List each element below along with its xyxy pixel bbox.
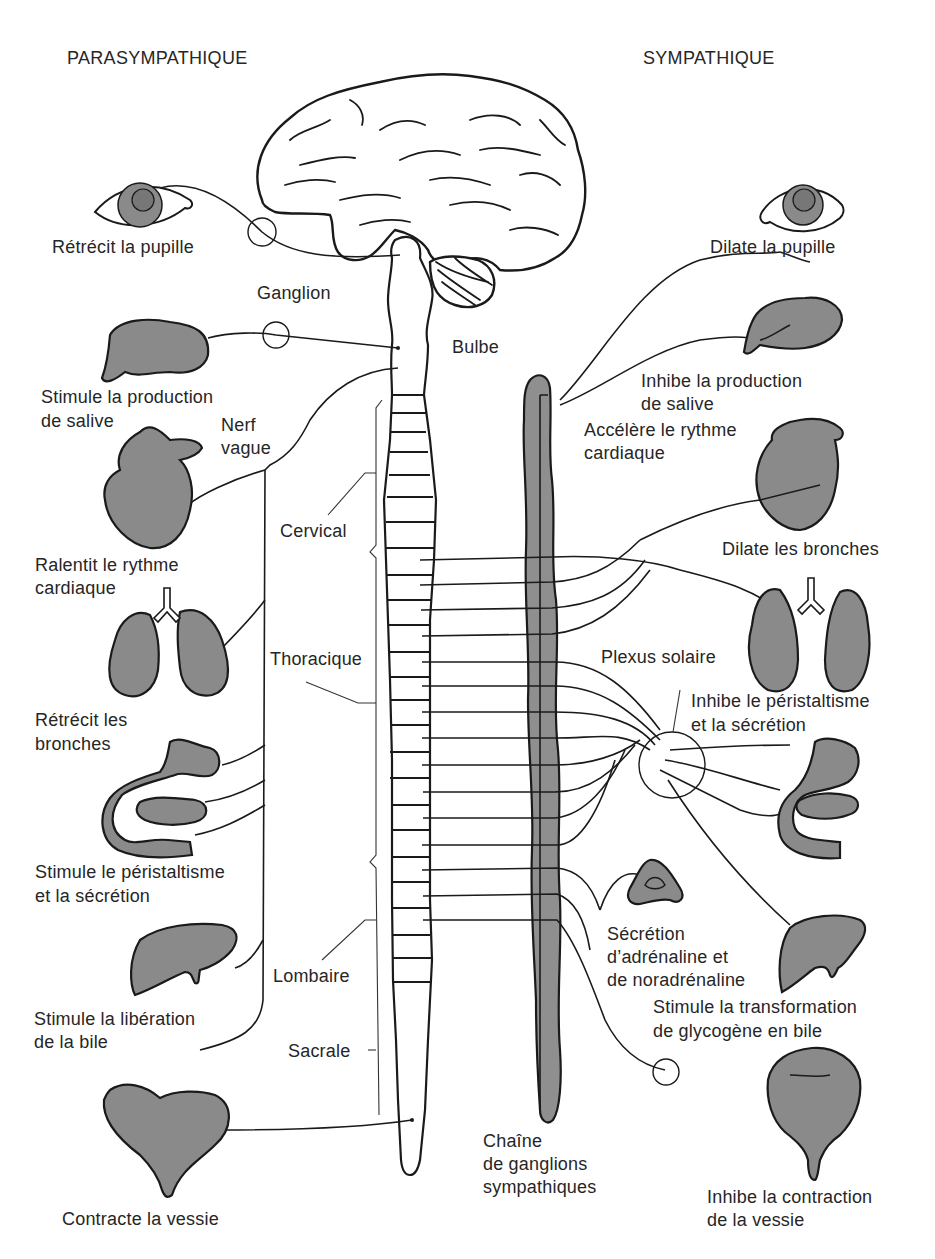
para-label-digestive-1: Stimule le péristaltisme <box>35 861 225 884</box>
para-label-digestive-2: et la sécrétion <box>35 885 150 908</box>
symp-label-bladder-2: de la vessie <box>707 1209 804 1232</box>
para-label-lungs-2: bronches <box>35 733 111 756</box>
label-chain-1: Chaîne <box>483 1130 542 1153</box>
symp-label-saliva-2: de salive <box>641 393 714 416</box>
adrenal-gland-icon <box>628 860 682 904</box>
liver-icon-left <box>131 924 236 995</box>
symp-label-adrenal-1: Sécrétion <box>607 923 685 946</box>
symp-label-liver-2: de glycogène en bile <box>653 1020 822 1043</box>
lungs-icon-right <box>749 578 869 691</box>
eye-icon-left <box>95 183 192 227</box>
para-label-heart-1: Ralentit le rythme <box>35 554 179 577</box>
stomach-intestine-icon-right <box>778 739 858 859</box>
bladder-icon-right <box>768 1048 861 1180</box>
region-brackets <box>306 400 382 1115</box>
sympathetic-chain <box>524 375 561 1122</box>
label-chain-2: de ganglions <box>483 1153 588 1176</box>
para-label-saliva-1: Stimule la production <box>41 386 213 409</box>
symp-label-adrenal-2: d’adrénaline et <box>607 946 728 969</box>
stomach-intestine-icon-left <box>102 740 219 858</box>
symp-label-adrenal-3: de noradrénaline <box>607 969 745 992</box>
para-label-saliva-2: de salive <box>41 410 114 433</box>
lungs-icon-left <box>109 588 228 696</box>
eye-icon-right <box>760 185 843 231</box>
symp-label-heart-2: cardiaque <box>584 442 665 465</box>
symp-label-lungs: Dilate les bronches <box>722 538 879 561</box>
symp-label-liver-1: Stimule la transformation <box>653 996 857 1019</box>
liver-icon-right <box>780 916 865 992</box>
plexus-solaire-circle <box>639 732 705 798</box>
symp-label-eye: Dilate la pupille <box>710 236 835 259</box>
label-ganglion: Ganglion <box>257 282 331 305</box>
bladder-icon-left <box>104 1085 229 1197</box>
header-sympathetic: SYMPATHIQUE <box>643 48 775 69</box>
para-label-lungs-1: Rétrécit les <box>35 709 127 732</box>
symp-label-heart-1: Accélère le rythme <box>584 419 737 442</box>
para-label-heart-2: cardiaque <box>35 577 116 600</box>
symp-label-digestive-2: et la sécrétion <box>691 714 806 737</box>
para-label-liver-1: Stimule la libération <box>34 1008 195 1031</box>
label-nerf-vague-2: vague <box>221 437 271 460</box>
heart-icon-right <box>756 419 842 530</box>
label-thoracique: Thoracique <box>270 648 362 671</box>
symp-label-saliva-1: Inhibe la production <box>641 370 802 393</box>
ganglion-circle-bladder <box>653 1059 679 1085</box>
nervous-system-diagram <box>0 0 935 1259</box>
para-label-liver-2: de la bile <box>34 1031 108 1054</box>
header-parasympathetic: PARASYMPATHIQUE <box>67 48 248 69</box>
label-chain-3: sympathiques <box>483 1176 596 1199</box>
label-sacrale: Sacrale <box>288 1040 350 1063</box>
spinal-cord <box>384 237 436 1175</box>
para-label-bladder: Contracte la vessie <box>62 1208 219 1231</box>
label-plexus-solaire: Plexus solaire <box>601 646 716 669</box>
heart-icon-left <box>104 427 202 548</box>
symp-label-digestive-1: Inhibe le péristaltisme <box>691 690 870 713</box>
label-cervical: Cervical <box>280 520 347 543</box>
label-nerf-vague-1: Nerf <box>221 414 256 437</box>
salivary-gland-icon-left <box>102 320 208 382</box>
para-label-eye: Rétrécit la pupille <box>52 236 194 259</box>
symp-label-bladder-1: Inhibe la contraction <box>707 1186 872 1209</box>
label-lombaire: Lombaire <box>273 965 350 988</box>
label-bulbe: Bulbe <box>452 336 499 359</box>
salivary-gland-icon-right <box>744 298 842 354</box>
